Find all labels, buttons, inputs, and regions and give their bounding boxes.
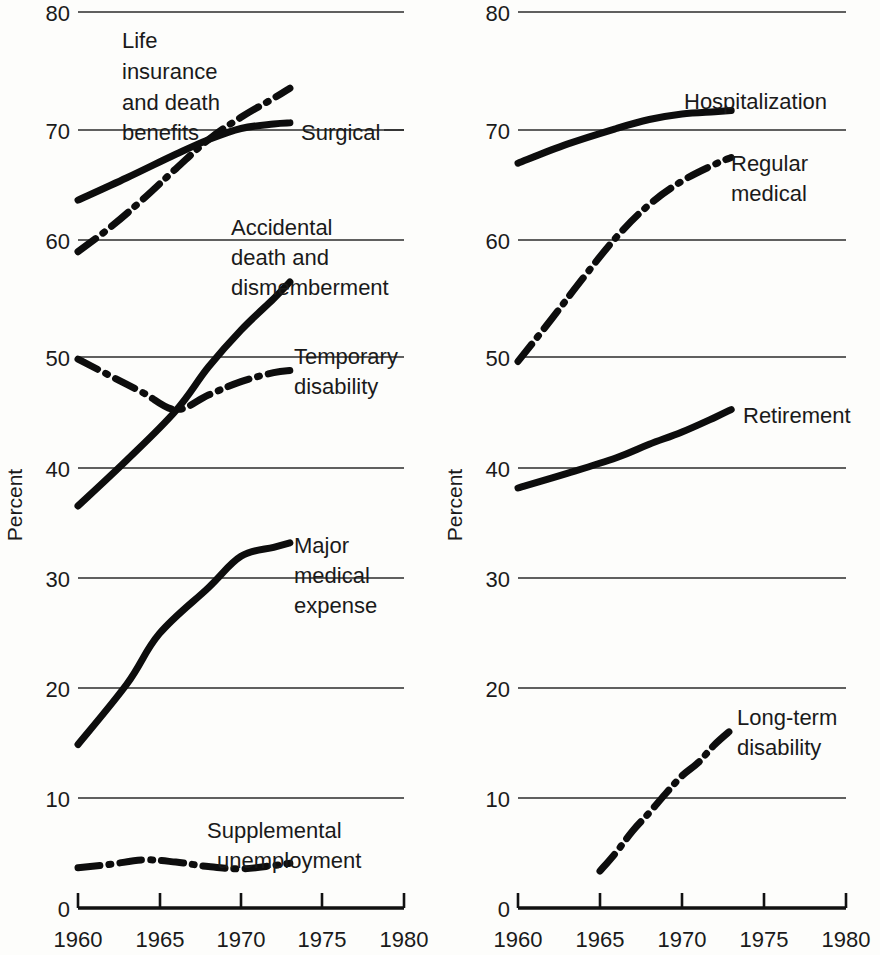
ytick-label-10: 10 [46,787,70,812]
left-annotations: Life insurance and death benefits Surgic… [122,28,398,873]
left-series-lines [78,88,290,869]
xtick-label-1975: 1975 [298,927,347,952]
label-supplemental-1: Supplemental [207,818,342,843]
series-major-medical [78,543,290,745]
xtick-label-1970: 1970 [217,927,266,952]
ytick-label-80: 80 [486,1,510,26]
right-axis [518,893,846,908]
ytick-label-40: 40 [46,457,70,482]
left-panel-svg: 80 70 60 50 40 30 20 10 0 1960 1965 1970… [0,0,440,955]
label-major-medical-2: medical [294,563,370,588]
label-temporary-1: Temporary [294,344,398,369]
xtick-label-1975: 1975 [740,927,789,952]
ytick-label-60: 60 [46,229,70,254]
label-supplemental-2: unemployment [217,848,361,873]
ytick-label-10: 10 [486,787,510,812]
right-y-tick-labels: 80 70 60 50 40 30 20 10 0 [486,1,510,922]
series-long-term-disability [600,730,731,871]
xtick-label-1960: 1960 [494,927,543,952]
right-annotations: Hospitalization Regular medical Retireme… [684,89,851,760]
series-retirement [518,410,731,488]
label-life-insurance-2: insurance [122,59,217,84]
ytick-label-60: 60 [486,229,510,254]
y-axis-title-left: Percent [3,469,26,542]
ytick-label-0: 0 [498,897,510,922]
label-long-term-1: Long-term [737,705,837,730]
left-axis [78,893,404,908]
label-accidental-3: dismemberment [231,275,389,300]
label-regular-medical-2: medical [731,181,807,206]
label-retirement: Retirement [743,403,851,428]
xtick-label-1960: 1960 [54,927,103,952]
chart-panel-left: 80 70 60 50 40 30 20 10 0 1960 1965 1970… [0,0,440,955]
label-life-insurance-4: benefits [122,120,199,145]
right-x-tick-labels: 1960 1965 1970 1975 1980 [494,927,871,952]
ytick-label-70: 70 [46,119,70,144]
right-panel-svg: 80 70 60 50 40 30 20 10 0 1960 1965 1970… [440,0,880,955]
label-regular-medical-1: Regular [731,151,808,176]
label-hospitalization: Hospitalization [684,89,827,114]
label-temporary-2: disability [294,374,378,399]
ytick-label-80: 80 [46,1,70,26]
xtick-label-1970: 1970 [658,927,707,952]
label-accidental-1: Accidental [231,215,333,240]
series-regular-medical [518,158,731,362]
ytick-label-0: 0 [58,897,70,922]
xtick-label-1965: 1965 [576,927,625,952]
label-long-term-2: disability [737,735,821,760]
ytick-label-50: 50 [46,346,70,371]
label-accidental-2: death and [231,245,329,270]
label-life-insurance-1: Life [122,28,157,53]
xtick-label-1980: 1980 [380,927,429,952]
ytick-label-20: 20 [486,677,510,702]
series-hospitalization [518,111,731,164]
ytick-label-50: 50 [486,346,510,371]
label-surgical: Surgical [301,120,380,145]
left-x-tick-labels: 1960 1965 1970 1975 1980 [54,927,429,952]
series-accidental-death [78,282,290,506]
label-life-insurance-3: and death [122,90,220,115]
right-series-lines [518,111,731,871]
figure-root: 80 70 60 50 40 30 20 10 0 1960 1965 1970… [0,0,880,955]
label-major-medical-3: expense [294,593,377,618]
chart-panel-right: 80 70 60 50 40 30 20 10 0 1960 1965 1970… [440,0,880,955]
y-axis-title-right: Percent [443,469,466,542]
ytick-label-70: 70 [486,119,510,144]
left-y-tick-labels: 80 70 60 50 40 30 20 10 0 [46,1,70,922]
label-major-medical-1: Major [294,533,349,558]
xtick-label-1980: 1980 [822,927,871,952]
xtick-label-1965: 1965 [136,927,185,952]
ytick-label-20: 20 [46,677,70,702]
ytick-label-30: 30 [46,567,70,592]
ytick-label-40: 40 [486,457,510,482]
ytick-label-30: 30 [486,567,510,592]
